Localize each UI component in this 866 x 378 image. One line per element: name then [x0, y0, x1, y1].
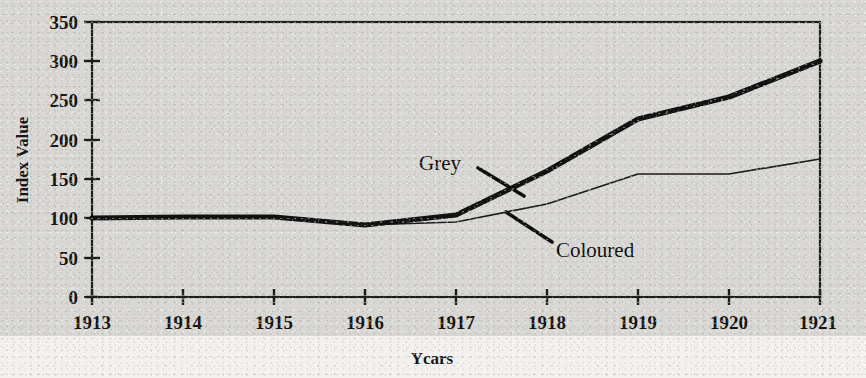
x-tick-label-1914: 1914 [164, 312, 203, 333]
x-axis-tick-labels: 1913 1914 1915 1916 1917 1918 1919 1920 … [73, 312, 837, 333]
y-tick-label-250: 250 [50, 90, 79, 111]
series-label-grey: Grey [419, 151, 461, 175]
x-tick-label-1919: 1919 [619, 312, 657, 333]
y-axis-title: Index Value [13, 116, 32, 203]
series-line-grey [92, 61, 820, 225]
y-tick-label-350: 350 [50, 12, 79, 33]
series-label-coloured: Coloured [556, 238, 635, 262]
x-tick-label-1921: 1921 [799, 312, 837, 333]
x-tick-label-1918: 1918 [528, 312, 566, 333]
y-axis-tick-labels: 350 300 250 200 150 100 50 0 [50, 12, 79, 308]
x-tick-label-1916: 1916 [346, 312, 384, 333]
x-tick-label-1915: 1915 [255, 312, 293, 333]
y-tick-label-200: 200 [50, 130, 79, 151]
y-tick-label-0: 0 [69, 287, 79, 308]
y-tick-label-50: 50 [59, 248, 78, 269]
chart-page: 350 300 250 200 150 100 50 0 1913 1914 1… [0, 0, 866, 378]
x-tick-label-1917: 1917 [437, 312, 476, 333]
x-tick-label-1913: 1913 [73, 312, 111, 333]
y-tick-label-150: 150 [50, 169, 79, 190]
y-tick-label-300: 300 [50, 51, 79, 72]
leader-line-coloured [506, 212, 552, 242]
y-tick-label-100: 100 [50, 208, 79, 229]
annotation-coloured: Coloured [506, 212, 635, 262]
line-chart: 350 300 250 200 150 100 50 0 1913 1914 1… [0, 0, 866, 378]
x-axis-title: Ycars [411, 349, 454, 368]
x-tick-label-1920: 1920 [710, 312, 748, 333]
